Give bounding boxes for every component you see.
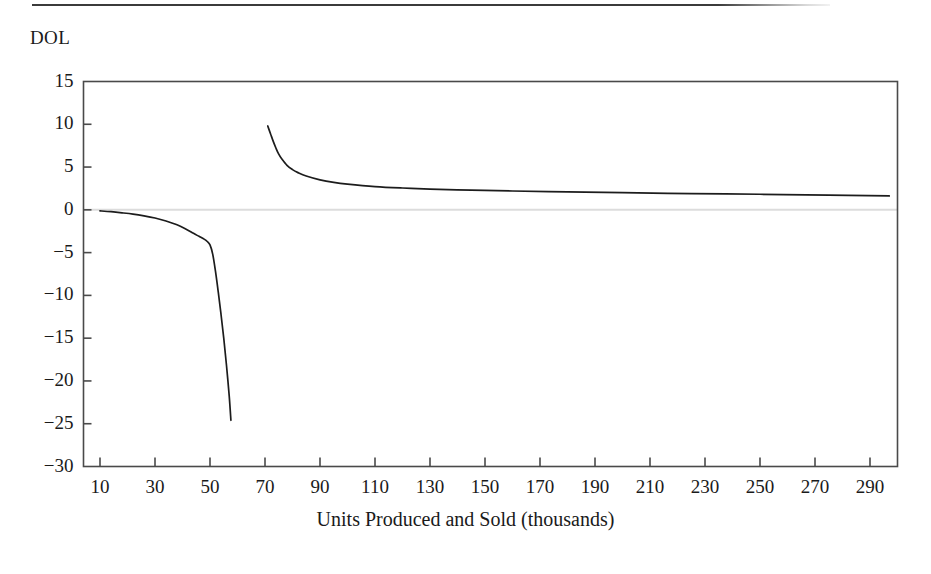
x-tick-label-10: 210 <box>620 476 680 498</box>
data-line-0 <box>100 211 231 420</box>
x-tick-label-0: 10 <box>70 476 130 498</box>
x-tick-label-2: 50 <box>180 476 240 498</box>
x-tick-label-13: 270 <box>785 476 845 498</box>
x-tick-label-1: 30 <box>125 476 185 498</box>
x-tick-label-4: 90 <box>290 476 350 498</box>
x-tick-label-6: 130 <box>400 476 460 498</box>
y-tick-label-9: −30 <box>18 455 74 477</box>
y-tick-label-3: 0 <box>18 198 74 220</box>
y-tick-label-8: −25 <box>18 412 74 434</box>
y-tick-label-6: −15 <box>18 326 74 348</box>
x-axis-title: Units Produced and Sold (thousands) <box>0 508 931 531</box>
y-tick-label-4: −5 <box>18 241 74 263</box>
y-tick-label-0: 15 <box>18 70 74 92</box>
plot-frame <box>84 82 898 467</box>
y-tick-label-2: 5 <box>18 155 74 177</box>
data-line-1 <box>268 126 890 196</box>
x-tick-label-3: 70 <box>235 476 295 498</box>
x-tick-label-12: 250 <box>730 476 790 498</box>
y-tick-label-1: 10 <box>18 112 74 134</box>
y-tick-label-7: −20 <box>18 369 74 391</box>
x-tick-label-14: 290 <box>840 476 900 498</box>
chart-figure: DOL 151050−5−10−15−20−25−30 103050709011… <box>0 0 931 574</box>
x-tick-label-8: 170 <box>510 476 570 498</box>
x-tick-label-5: 110 <box>345 476 405 498</box>
x-tick-label-7: 150 <box>455 476 515 498</box>
x-tick-label-11: 230 <box>675 476 735 498</box>
x-tick-label-9: 190 <box>565 476 625 498</box>
y-tick-label-5: −10 <box>18 283 74 305</box>
